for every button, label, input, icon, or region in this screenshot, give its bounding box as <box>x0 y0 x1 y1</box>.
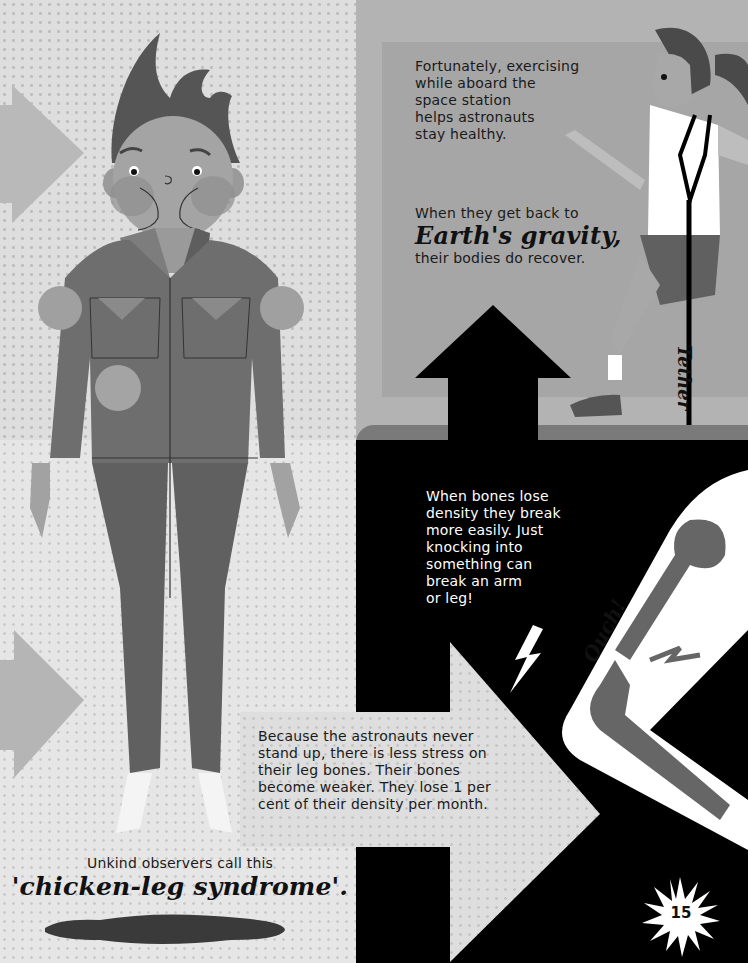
stress-text-line: their leg bones. Their bones <box>258 762 518 779</box>
stress-text: Because the astronauts never stand up, t… <box>258 728 518 813</box>
exercise-text-line: stay healthy. <box>415 126 615 143</box>
bones-text-line: or leg! <box>426 590 586 607</box>
book-page: Tether Fortunately, exercising while abo… <box>0 0 748 963</box>
bones-text-line: something can <box>426 556 586 573</box>
stress-text-line: become weaker. They lose 1 per <box>258 779 518 796</box>
bones-text: When bones lose density they break more … <box>426 488 586 607</box>
caption-intro: Unkind observers call this <box>0 855 360 872</box>
page-number: 15 <box>665 904 697 922</box>
exercise-text: Fortunately, exercising while aboard the… <box>415 58 615 143</box>
bones-text-line: more easily. Just <box>426 522 586 539</box>
recover-outro: their bodies do recover. <box>415 250 625 267</box>
recover-highlight: Earth's gravity, <box>415 222 625 250</box>
tether-label: Tether <box>674 345 695 410</box>
bones-text-line: knocking into <box>426 539 586 556</box>
exercise-text-line: Fortunately, exercising <box>415 58 615 75</box>
stress-text-line: stand up, there is less stress on <box>258 745 518 762</box>
arrow-up-icon <box>413 305 573 445</box>
exercise-text-line: space station <box>415 92 615 109</box>
caption: Unkind observers call this 'chicken-leg … <box>0 855 360 902</box>
recover-text: When they get back to Earth's gravity, t… <box>415 205 625 267</box>
stress-text-line: cent of their density per month. <box>258 796 518 813</box>
recover-intro: When they get back to <box>415 205 625 222</box>
bones-text-line: density they break <box>426 505 586 522</box>
bones-text-line: break an arm <box>426 573 586 590</box>
exercise-text-line: helps astronauts <box>415 109 615 126</box>
stress-text-line: Because the astronauts never <box>258 728 518 745</box>
shadow-illustration <box>40 910 290 950</box>
bones-text-line: When bones lose <box>426 488 586 505</box>
caption-highlight: 'chicken-leg syndrome'. <box>0 872 360 902</box>
exercise-text-line: while aboard the <box>415 75 615 92</box>
